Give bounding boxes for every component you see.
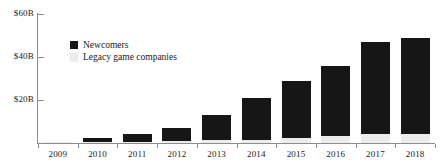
x-axis-tick-label: 2015 <box>276 149 316 159</box>
legend-swatch-newcomers <box>70 41 78 49</box>
bar-2010 <box>83 0 112 143</box>
x-axis-tick <box>38 144 39 148</box>
legend-label-newcomers: Newcomers <box>83 39 128 51</box>
x-axis-tick-label: 2009 <box>38 149 78 159</box>
bar-segment-legacy <box>282 138 311 143</box>
x-axis-tick-label: 2017 <box>356 149 396 159</box>
bar-2016 <box>321 0 350 143</box>
chart-legend: Newcomers Legacy game companies <box>70 39 177 63</box>
x-axis-tick <box>316 144 317 148</box>
bar-2012 <box>162 0 191 143</box>
bar-chart: $20B$40B$60B 200920102011201220132014201… <box>0 0 442 168</box>
bar-segment-legacy <box>361 134 390 143</box>
x-axis-tick-label: 2014 <box>237 149 277 159</box>
x-axis-tick <box>395 144 396 148</box>
bar-segment-legacy <box>162 141 191 143</box>
bar-segment-legacy <box>43 142 72 143</box>
x-axis-tick <box>157 144 158 148</box>
bar-2013 <box>202 0 231 143</box>
x-axis-tick-label: 2012 <box>157 149 197 159</box>
x-axis-tick <box>78 144 79 148</box>
x-axis-tick-label: 2016 <box>316 149 356 159</box>
x-axis-tick <box>237 144 238 148</box>
bar-segment-legacy <box>123 142 152 144</box>
bar-segment-legacy <box>401 134 430 143</box>
x-axis-tick <box>435 144 436 148</box>
bars-group <box>38 0 435 143</box>
bar-2017 <box>361 0 390 143</box>
x-axis-tick <box>276 144 277 148</box>
x-axis-tick-label: 2018 <box>395 149 435 159</box>
x-axis-tick-label: 2013 <box>197 149 237 159</box>
bar-2009 <box>43 0 72 143</box>
bar-segment-newcomers <box>202 115 231 140</box>
y-axis-tick-label: $20B <box>0 95 34 104</box>
legend-item-legacy-game-companies: Legacy game companies <box>70 51 177 63</box>
x-axis-tick-label: 2011 <box>117 149 157 159</box>
x-axis-tick <box>117 144 118 148</box>
bar-segment-legacy <box>321 136 350 143</box>
bar-segment-newcomers <box>361 42 390 134</box>
x-axis-tick <box>197 144 198 148</box>
y-axis-tick-label: $60B <box>0 9 34 18</box>
bar-segment-legacy <box>202 140 231 143</box>
legend-swatch-legacy-game-companies <box>70 53 78 61</box>
bar-segment-legacy <box>242 140 271 143</box>
bar-segment-newcomers <box>123 134 152 142</box>
bar-segment-legacy <box>83 142 112 143</box>
bar-2015 <box>282 0 311 143</box>
bar-2011 <box>123 0 152 143</box>
bar-segment-newcomers <box>282 81 311 139</box>
bar-2018 <box>401 0 430 143</box>
y-axis-tick-label: $40B <box>0 52 34 61</box>
legend-item-newcomers: Newcomers <box>70 39 177 51</box>
bar-segment-newcomers <box>162 128 191 142</box>
legend-label-legacy-game-companies: Legacy game companies <box>83 51 177 63</box>
x-axis-tick <box>356 144 357 148</box>
x-axis-tick-label: 2010 <box>78 149 118 159</box>
bar-segment-newcomers <box>321 66 350 136</box>
bar-segment-newcomers <box>242 98 271 140</box>
bar-segment-newcomers <box>401 38 430 134</box>
bar-2014 <box>242 0 271 143</box>
